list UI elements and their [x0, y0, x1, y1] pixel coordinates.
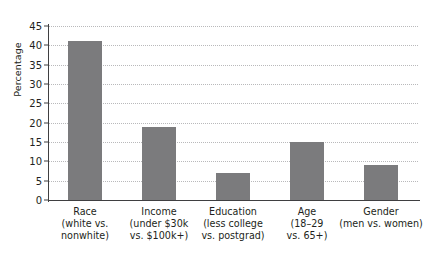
gridline — [48, 45, 418, 46]
y-tick-mark — [44, 64, 49, 65]
plot-area — [48, 26, 418, 200]
y-tick-label: 35 — [0, 59, 42, 70]
y-tick-label: 10 — [0, 156, 42, 167]
x-tick-label-line: Gender — [329, 206, 432, 218]
gridline — [48, 103, 418, 104]
x-tick-label-line: (men vs. women) — [329, 218, 432, 230]
gridline — [48, 26, 418, 27]
y-tick-label: 45 — [0, 21, 42, 32]
y-tick-mark — [44, 103, 49, 104]
y-tick-label: 20 — [0, 117, 42, 128]
gridline — [48, 142, 418, 143]
y-tick-mark — [44, 142, 49, 143]
y-axis-line — [48, 24, 49, 202]
y-tick-label: 25 — [0, 98, 42, 109]
y-tick-label: 15 — [0, 137, 42, 148]
bar — [142, 127, 176, 200]
y-tick-label: 0 — [0, 195, 42, 206]
y-tick-mark — [44, 161, 49, 162]
gridline — [48, 65, 418, 66]
y-tick-mark — [44, 45, 49, 46]
y-tick-label: 5 — [0, 175, 42, 186]
gridline — [48, 161, 418, 162]
y-tick-mark — [44, 26, 49, 27]
y-tick-mark — [44, 200, 49, 201]
y-tick-mark — [44, 180, 49, 181]
y-tick-mark — [44, 122, 49, 123]
bar — [364, 165, 398, 200]
bar — [290, 142, 324, 200]
x-tick-label-line: vs. 65+) — [255, 230, 359, 242]
bar — [68, 41, 102, 200]
y-tick-label: 40 — [0, 40, 42, 51]
y-tick-mark — [44, 84, 49, 85]
x-axis-line — [48, 200, 420, 201]
bar-chart: Percentage 051015202530354045 Race(white… — [0, 0, 432, 258]
gridline — [48, 84, 418, 85]
bar — [216, 173, 250, 200]
x-tick-label: Gender(men vs. women) — [329, 206, 432, 230]
gridline — [48, 123, 418, 124]
y-tick-label: 30 — [0, 79, 42, 90]
